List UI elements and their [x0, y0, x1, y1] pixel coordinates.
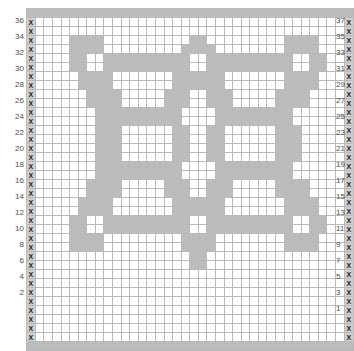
cell-empty[interactable] — [207, 36, 216, 45]
cell-filled[interactable] — [181, 99, 190, 108]
cell-filled[interactable] — [250, 162, 259, 171]
cell-empty[interactable] — [215, 243, 224, 252]
cell-filled[interactable] — [301, 81, 310, 90]
cell-empty[interactable] — [284, 315, 293, 324]
cell-empty[interactable] — [87, 162, 96, 171]
cell-empty[interactable] — [113, 27, 122, 36]
cell-filled[interactable] — [87, 342, 96, 351]
cell-empty[interactable] — [173, 288, 182, 297]
cell-filled[interactable] — [250, 54, 259, 63]
cell-empty[interactable] — [250, 180, 259, 189]
cell-empty[interactable] — [190, 288, 199, 297]
cell-filled[interactable] — [293, 207, 302, 216]
cell-empty[interactable] — [258, 36, 267, 45]
cell-filled[interactable] — [293, 9, 302, 18]
cell-empty[interactable] — [121, 324, 130, 333]
cell-empty[interactable] — [52, 54, 61, 63]
cell-empty[interactable] — [327, 162, 336, 171]
cell-empty[interactable] — [78, 153, 87, 162]
cell-empty[interactable] — [164, 324, 173, 333]
cell-empty[interactable] — [44, 297, 53, 306]
cell-filled[interactable] — [224, 225, 233, 234]
cell-empty[interactable] — [224, 324, 233, 333]
cell-empty[interactable] — [327, 297, 336, 306]
cell-filled[interactable] — [121, 342, 130, 351]
cell-filled[interactable] — [190, 45, 199, 54]
cell-empty[interactable] — [310, 324, 319, 333]
cell-filled[interactable] — [113, 54, 122, 63]
cell-filled[interactable] — [190, 261, 199, 270]
cell-empty[interactable] — [181, 27, 190, 36]
cell-filled[interactable] — [224, 63, 233, 72]
cell-empty[interactable] — [87, 18, 96, 27]
cell-filled[interactable] — [318, 342, 327, 351]
cell-empty[interactable] — [233, 234, 242, 243]
cell-empty[interactable] — [130, 135, 139, 144]
cell-filled[interactable] — [95, 135, 104, 144]
cell-empty[interactable] — [147, 324, 156, 333]
cell-empty[interactable] — [70, 207, 79, 216]
cell-empty[interactable] — [147, 18, 156, 27]
cell-empty[interactable] — [121, 234, 130, 243]
cell-empty[interactable] — [44, 333, 53, 342]
cell-empty[interactable] — [147, 297, 156, 306]
cell-filled[interactable] — [190, 342, 199, 351]
cell-empty[interactable] — [44, 108, 53, 117]
cell-filled[interactable] — [215, 126, 224, 135]
cell-empty[interactable] — [121, 72, 130, 81]
cell-empty[interactable] — [138, 288, 147, 297]
cell-empty[interactable] — [181, 315, 190, 324]
cell-filled[interactable] — [155, 171, 164, 180]
cell-filled[interactable] — [95, 198, 104, 207]
cell-empty[interactable] — [258, 135, 267, 144]
cell-empty[interactable] — [250, 36, 259, 45]
cell-empty[interactable] — [35, 144, 44, 153]
cell-empty[interactable] — [327, 90, 336, 99]
cell-filled[interactable] — [130, 117, 139, 126]
cell-filled[interactable] — [44, 342, 53, 351]
cell-filled[interactable] — [267, 117, 276, 126]
cell-filled[interactable] — [250, 342, 259, 351]
cell-empty[interactable] — [113, 198, 122, 207]
cell-filled[interactable] — [224, 54, 233, 63]
cell-empty[interactable] — [130, 261, 139, 270]
cell-empty[interactable] — [215, 45, 224, 54]
cell-empty[interactable] — [35, 90, 44, 99]
cell-filled[interactable] — [241, 108, 250, 117]
cell-filled[interactable] — [173, 207, 182, 216]
cell-empty[interactable] — [250, 18, 259, 27]
cell-empty[interactable] — [44, 189, 53, 198]
cell-empty[interactable] — [318, 99, 327, 108]
cell-empty[interactable] — [35, 288, 44, 297]
cell-empty[interactable] — [190, 333, 199, 342]
cell-filled[interactable] — [104, 99, 113, 108]
cell-empty[interactable] — [250, 99, 259, 108]
cell-filled[interactable] — [276, 9, 285, 18]
cell-empty[interactable] — [44, 198, 53, 207]
cell-filled[interactable] — [164, 189, 173, 198]
cell-empty[interactable] — [35, 198, 44, 207]
cell-empty[interactable] — [327, 288, 336, 297]
cell-filled[interactable] — [215, 72, 224, 81]
cell-empty[interactable] — [310, 153, 319, 162]
cell-filled[interactable] — [224, 162, 233, 171]
cell-filled[interactable] — [241, 171, 250, 180]
cell-empty[interactable] — [276, 261, 285, 270]
cell-empty[interactable] — [70, 279, 79, 288]
cell-empty[interactable] — [70, 144, 79, 153]
cell-empty[interactable] — [327, 333, 336, 342]
cell-empty[interactable] — [52, 252, 61, 261]
cell-filled[interactable] — [207, 342, 216, 351]
cell-filled[interactable] — [173, 135, 182, 144]
cell-empty[interactable] — [44, 90, 53, 99]
cell-empty[interactable] — [138, 306, 147, 315]
cell-filled[interactable] — [138, 162, 147, 171]
cell-empty[interactable] — [258, 126, 267, 135]
cell-empty[interactable] — [258, 18, 267, 27]
cell-filled[interactable] — [276, 144, 285, 153]
cell-empty[interactable] — [318, 279, 327, 288]
cell-empty[interactable] — [310, 162, 319, 171]
cell-empty[interactable] — [241, 297, 250, 306]
cell-filled[interactable] — [104, 54, 113, 63]
cell-filled[interactable] — [190, 234, 199, 243]
